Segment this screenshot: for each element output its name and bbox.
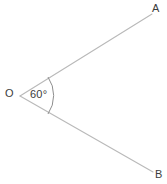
ray-ob-line	[20, 96, 153, 172]
diagram-canvas	[0, 0, 167, 184]
angle-arc-marker	[48, 77, 54, 114]
ray-oa-line	[20, 14, 152, 96]
endpoint-label-a: A	[152, 3, 159, 14]
endpoint-label-b: B	[155, 169, 162, 180]
vertex-label-o: O	[5, 88, 14, 99]
angle-diagram-figure: O A B 60°	[0, 0, 167, 184]
angle-measure-label: 60°	[30, 89, 47, 100]
